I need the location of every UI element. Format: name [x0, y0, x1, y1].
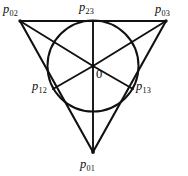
point-label-p23-symbol: p	[79, 0, 85, 14]
vertex-marker-p03	[164, 19, 167, 22]
center-point-marker	[91, 64, 95, 68]
point-label-p01-subscript: 01	[87, 164, 95, 173]
point-label-p23-subscript: 23	[86, 7, 94, 16]
point-label-p01-symbol: p	[80, 157, 86, 171]
radius-to-p02	[20, 21, 93, 66]
origin-label: 0	[96, 68, 102, 81]
point-label-p03: p03	[155, 3, 170, 16]
point-label-p13-subscript: 13	[143, 86, 151, 95]
point-label-p03-symbol: p	[155, 2, 161, 16]
point-label-p23: p23	[79, 1, 94, 14]
point-label-p03-subscript: 03	[162, 9, 170, 18]
point-label-p12-symbol: p	[32, 79, 38, 93]
point-label-p02-symbol: p	[3, 2, 9, 16]
radius-to-p03	[93, 21, 166, 66]
point-label-p01: p01	[80, 158, 95, 171]
vertex-marker-p01	[91, 150, 95, 154]
point-label-p12-subscript: 12	[39, 86, 47, 95]
point-label-p13: p13	[136, 80, 151, 93]
point-label-p02-subscript: 02	[10, 9, 18, 18]
point-label-p13-symbol: p	[136, 79, 142, 93]
point-label-p02: p02	[3, 3, 18, 16]
vertex-marker-p02	[18, 19, 21, 22]
geometry-figure: p02 p23 p03 p12 p13 p01 0	[0, 0, 188, 176]
figure-canvas	[0, 0, 188, 176]
point-label-p12: p12	[32, 80, 47, 93]
radius-to-p12	[53, 66, 93, 89]
